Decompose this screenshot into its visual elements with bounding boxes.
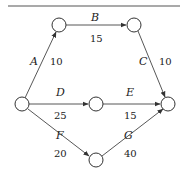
edge-label-a: A: [29, 55, 38, 68]
edge-weight-f: 20: [54, 148, 67, 159]
edge-weight-a: 10: [50, 56, 63, 67]
node-end: [161, 97, 175, 111]
edge-label-g: G: [124, 129, 133, 142]
edge-label-c: C: [139, 55, 148, 68]
node-bottom: [89, 153, 103, 167]
edge-weight-c: 10: [159, 56, 172, 67]
node-top-left: [52, 18, 66, 32]
edge-weight-g: 40: [124, 148, 137, 159]
edge-label-b: B: [90, 11, 99, 24]
edge-label-d: D: [55, 86, 65, 99]
edge-weight-b: 15: [90, 33, 103, 44]
edge-weight-d: 25: [54, 110, 67, 121]
edge-weight-e: 15: [124, 110, 137, 121]
node-middle: [89, 97, 103, 111]
edge-label-e: E: [125, 86, 134, 99]
node-top-right: [127, 18, 141, 32]
activity-network-diagram: A 10 B 15 C 10 D 25 E 15 F 20 G 40: [0, 0, 186, 188]
edge-label-f: F: [55, 129, 64, 142]
node-start: [15, 97, 29, 111]
